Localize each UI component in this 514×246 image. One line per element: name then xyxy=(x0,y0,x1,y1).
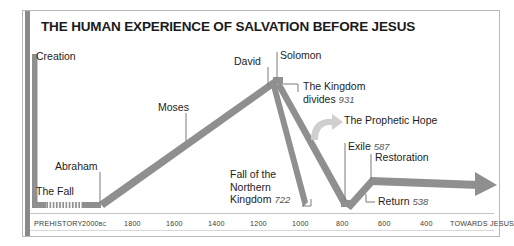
label-restoration: Restoration xyxy=(375,151,429,164)
fall-north-line2: Northern xyxy=(230,181,271,193)
axis-tick-label: 1200 xyxy=(250,219,267,228)
towards-jesus-arrowhead xyxy=(475,172,497,196)
fall-north-year: 722 xyxy=(274,194,290,205)
label-return: Return 538 xyxy=(378,195,428,209)
restoration-band xyxy=(371,177,479,189)
axis-tick-label: TOWARDS JESUS xyxy=(450,219,514,228)
axis-tick-prehistory: PREHISTORY xyxy=(34,219,82,228)
axis-tick-suffix: BC xyxy=(99,221,107,227)
axis-tick-label: 1400 xyxy=(208,219,225,228)
creation-drop-band xyxy=(32,54,38,202)
label-fall-northern-kingdom: Fall of the Northern Kingdom 722 xyxy=(230,168,290,207)
kingdom-divides-line1: The Kingdom xyxy=(303,80,365,92)
kingdom-divides-year: 931 xyxy=(339,94,355,105)
fall-band xyxy=(32,202,46,208)
axis-tick-2000bc: 2000BC xyxy=(82,219,106,228)
axis-tick-label: 800 xyxy=(336,219,349,228)
axis-tick-400: 400 xyxy=(420,219,433,228)
axis-tick-1200: 1200 xyxy=(250,219,267,228)
axis-top-rule xyxy=(30,213,494,214)
axis-tick-label: PREHISTORY xyxy=(34,219,82,228)
label-abraham: Abraham xyxy=(55,160,98,173)
axis-tick-label: 1000 xyxy=(292,219,309,228)
axis-tick-600: 600 xyxy=(378,219,391,228)
fall-north-line3: Kingdom xyxy=(230,193,271,205)
axis-tick-label: 1600 xyxy=(166,219,183,228)
axis-tick-towards-jesus: TOWARDS JESUS xyxy=(450,219,514,228)
label-kingdom-divides: The Kingdom divides 931 xyxy=(303,80,365,106)
return-year: 538 xyxy=(412,196,428,207)
return-text: Return xyxy=(378,195,410,207)
axis-tick-800: 800 xyxy=(336,219,349,228)
label-david: David xyxy=(234,55,261,68)
axis-tick-label: 600 xyxy=(378,219,391,228)
fall-hatched-band xyxy=(46,202,82,208)
axis-tick-1600: 1600 xyxy=(166,219,183,228)
axis-tick-label: 400 xyxy=(420,219,433,228)
label-moses: Moses xyxy=(158,101,189,114)
axis-tick-label: 1800 xyxy=(124,219,141,228)
label-solomon: Solomon xyxy=(280,49,321,62)
label-creation: Creation xyxy=(36,50,76,63)
exile-text: Exile xyxy=(348,140,371,152)
label-prophetic-hope: The Prophetic Hope xyxy=(344,114,437,127)
axis-tick-1800: 1800 xyxy=(124,219,141,228)
prophetic-hope-curved-arrow xyxy=(311,114,343,140)
return-leader xyxy=(366,194,375,202)
abraham-band xyxy=(82,202,101,208)
axis-tick-1000: 1000 xyxy=(292,219,309,228)
axis-bottom-rule xyxy=(30,230,494,231)
label-the-fall: The Fall xyxy=(36,185,74,198)
axis-tick-label: 2000 xyxy=(82,219,99,228)
axis-tick-1400: 1400 xyxy=(208,219,225,228)
fall-north-line1: Fall of the xyxy=(230,168,276,180)
kingdom-divides-line2: divides xyxy=(303,93,336,105)
